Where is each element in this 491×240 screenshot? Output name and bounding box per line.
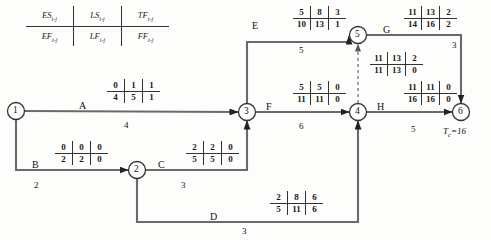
legend-tf-cell: TFi-j — [122, 6, 169, 26]
B-ls: 0 — [73, 141, 91, 153]
node-label-6: 6 — [458, 106, 463, 116]
C-lf: 5 — [204, 154, 222, 166]
A-ff: 1 — [143, 92, 160, 104]
H-ff: 0 — [440, 94, 457, 106]
legend-ef-cell: EFi-j — [26, 27, 74, 47]
dummy-es: 11 — [370, 52, 388, 64]
B-lf: 2 — [73, 154, 91, 166]
duration-label-D: 3 — [242, 226, 247, 236]
E-ls: 8 — [311, 6, 329, 18]
value-box-E: 5 8 3 10 13 1 — [293, 6, 346, 30]
dummy-ff: 0 — [406, 65, 423, 77]
value-box-F: 5 5 0 11 11 0 — [293, 81, 346, 105]
dummy-tf: 2 — [406, 52, 423, 64]
activity-label-E: E — [252, 20, 258, 31]
node-label-3: 3 — [244, 106, 249, 116]
G-ef: 14 — [404, 19, 422, 31]
duration-label-F: 6 — [299, 121, 304, 131]
C-ls: 2 — [204, 141, 222, 153]
activity-label-H: H — [377, 101, 384, 112]
C-tf: 0 — [222, 141, 239, 153]
A-lf: 5 — [125, 92, 143, 104]
E-ff: 1 — [329, 19, 346, 31]
node-label-5: 5 — [355, 29, 360, 39]
C-es: 2 — [186, 141, 204, 153]
G-tf: 2 — [440, 6, 457, 18]
node-label-2: 2 — [134, 164, 139, 174]
legend-es-cell: ESi-j — [26, 6, 74, 26]
node-label-4: 4 — [355, 106, 360, 116]
duration-label-A: 4 — [124, 120, 129, 130]
E-tf: 3 — [329, 6, 346, 18]
G-lf: 16 — [422, 19, 440, 31]
duration-label-H: 5 — [411, 124, 416, 134]
node-label-1: 1 — [13, 105, 18, 115]
value-box-B: 0 0 0 2 2 0 — [55, 141, 108, 165]
D-ef: 5 — [270, 204, 288, 216]
value-box-A: 0 1 1 4 5 1 — [107, 79, 160, 103]
G-ff: 2 — [440, 19, 457, 31]
G-es: 11 — [404, 6, 422, 18]
A-tf: 1 — [143, 79, 160, 91]
activity-label-G: G — [383, 24, 390, 35]
E-es: 5 — [293, 6, 311, 18]
H-ef: 16 — [404, 94, 422, 106]
activity-label-D: D — [210, 211, 217, 222]
activity-label-F: F — [266, 101, 272, 112]
network-diagram-canvas: ESi-j LSi-j TFi-j EFi-j LFi-j FFi-j 1 2 … — [0, 0, 491, 240]
B-ef: 2 — [55, 154, 73, 166]
D-lf: 11 — [288, 204, 306, 216]
edge-A — [24, 111, 238, 112]
H-tf: 0 — [440, 81, 457, 93]
B-es: 0 — [55, 141, 73, 153]
dummy-ef: 11 — [370, 65, 388, 77]
dummy-lf: 13 — [388, 65, 406, 77]
activity-label-C: C — [158, 159, 165, 170]
activity-label-A: A — [79, 100, 86, 111]
D-ff: 6 — [306, 204, 323, 216]
C-ef: 5 — [186, 154, 204, 166]
C-ff: 0 — [222, 154, 239, 166]
legend-key-box: ESi-j LSi-j TFi-j EFi-j LFi-j FFi-j — [26, 6, 169, 46]
D-es: 2 — [270, 191, 288, 203]
activity-label-B: B — [32, 159, 39, 170]
tc-value: =16 — [451, 126, 466, 136]
B-tf: 0 — [91, 141, 108, 153]
E-lf: 13 — [311, 19, 329, 31]
legend-ff-cell: FFi-j — [122, 27, 169, 47]
F-lf: 11 — [311, 94, 329, 106]
value-box-H: 11 11 0 16 16 0 — [404, 81, 457, 105]
value-box-G: 11 13 2 14 16 2 — [404, 6, 457, 30]
value-box-dummy: 11 13 2 11 13 0 — [370, 52, 423, 76]
F-ff: 0 — [329, 94, 346, 106]
value-box-D: 2 8 6 5 11 6 — [270, 191, 323, 215]
value-box-C: 2 2 0 5 5 0 — [186, 141, 239, 165]
dummy-ls: 13 — [388, 52, 406, 64]
E-ef: 10 — [293, 19, 311, 31]
legend-lf-cell: LFi-j — [74, 27, 122, 47]
duration-label-C: 3 — [181, 180, 186, 190]
A-ef: 4 — [107, 92, 125, 104]
D-ls: 8 — [288, 191, 306, 203]
F-ef: 11 — [293, 94, 311, 106]
project-completion-time: Tc=16 — [443, 126, 466, 138]
G-ls: 13 — [422, 6, 440, 18]
D-tf: 6 — [306, 191, 323, 203]
B-ff: 0 — [91, 154, 108, 166]
F-ls: 5 — [311, 81, 329, 93]
H-ls: 11 — [422, 81, 440, 93]
legend-ls-cell: LSi-j — [74, 6, 122, 26]
A-es: 0 — [107, 79, 125, 91]
F-tf: 0 — [329, 81, 346, 93]
F-es: 5 — [293, 81, 311, 93]
duration-label-B: 2 — [34, 180, 39, 190]
H-lf: 16 — [422, 94, 440, 106]
duration-label-E: 5 — [299, 45, 304, 55]
A-ls: 1 — [125, 79, 143, 91]
duration-label-G: 3 — [452, 40, 457, 50]
H-es: 11 — [404, 81, 422, 93]
